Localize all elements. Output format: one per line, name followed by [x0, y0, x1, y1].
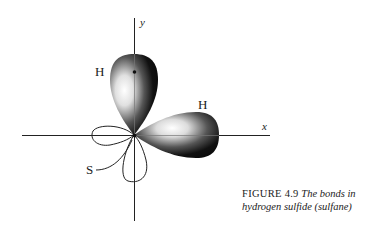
atom-label-s: S: [86, 162, 93, 178]
h-orbital-right-lobe: [134, 112, 219, 158]
y-axis-label: y: [140, 16, 145, 28]
sulfur-nucleus-dot: [133, 134, 137, 138]
caption-line-2: hydrogen sulfide (sulfane): [242, 201, 352, 212]
atom-label-h-top: H: [95, 64, 104, 80]
figure-caption: FIGURE 4.9 The bonds in hydrogen sulfide…: [242, 187, 372, 213]
h-orbital-top-lobe: [110, 54, 158, 135]
figure-number: FIGURE 4.9: [242, 188, 299, 199]
caption-line-1: The bonds in: [301, 188, 355, 199]
atom-label-h-right: H: [198, 97, 207, 113]
x-axis-label: x: [262, 120, 267, 132]
hydrogen-nucleus-dot: [133, 70, 137, 74]
